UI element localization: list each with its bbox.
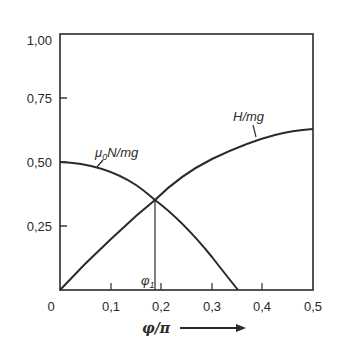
y-tick-0-25: 0,25 xyxy=(27,219,52,234)
x-axis-ticks xyxy=(111,283,262,290)
y-axis-labels: 1,00 0,75 0,50 0,25 0 xyxy=(27,33,55,314)
origin-label: 0 xyxy=(47,299,54,314)
y-tick-0-75: 0,75 xyxy=(27,91,52,106)
chart-figure: 1,00 0,75 0,50 0,25 0 0,1 0,2 0,3 0,4 0,… xyxy=(0,0,339,356)
x-axis-labels: 0,1 0,2 0,3 0,4 0,5 xyxy=(102,299,322,314)
x-axis-title: φ/π xyxy=(142,320,171,336)
y-tick-0-50: 0,50 xyxy=(27,155,52,170)
x-tick-0-4: 0,4 xyxy=(253,299,271,314)
mu-n-mg-label: μ0N/mg xyxy=(94,145,139,162)
arrow-right-icon xyxy=(180,324,246,332)
x-tick-0-1: 0,1 xyxy=(102,299,120,314)
y-tick-1-00: 1,00 xyxy=(27,33,52,48)
phi1-label: φ1 xyxy=(141,273,155,290)
h-mg-label: H/mg xyxy=(233,109,265,124)
x-tick-0-2: 0,2 xyxy=(152,299,170,314)
mu-n-mg-leader xyxy=(97,160,103,167)
x-tick-0-3: 0,3 xyxy=(203,299,221,314)
x-tick-0-5: 0,5 xyxy=(304,299,322,314)
mu-n-mg-curve xyxy=(60,162,238,290)
h-mg-leader xyxy=(253,125,256,137)
